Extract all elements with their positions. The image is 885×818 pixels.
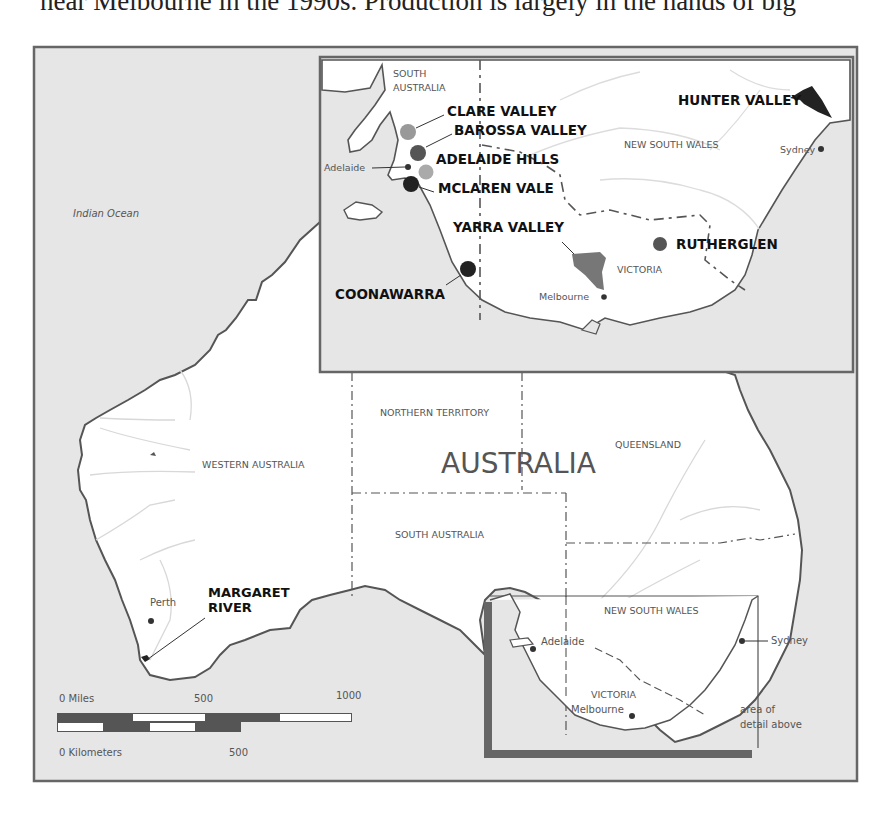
state-label-wa: WESTERN AUSTRALIA	[202, 459, 305, 470]
scale-km-label: 0 Kilometers	[59, 747, 122, 758]
region-label-rutherglen: RUTHERGLEN	[676, 236, 778, 252]
state-label-nt: NORTHERN TERRITORY	[380, 407, 489, 418]
city-label-perth: Perth	[150, 597, 176, 608]
inset-city-melbourne: Melbourne	[539, 291, 589, 302]
locator-city-adelaide: Adelaide	[541, 636, 584, 647]
locator-city-sydney: Sydney	[771, 635, 808, 646]
perth-dot	[148, 618, 154, 624]
region-label-clare: CLARE VALLEY	[447, 103, 557, 119]
region-label-adelaide-hills: ADELAIDE HILLS	[436, 151, 559, 167]
scale-km-500: 500	[229, 747, 248, 758]
inset-state-sa-1: SOUTH	[393, 68, 426, 79]
australia-wine-map: Indian Ocean AUSTRALIA WESTERN AUSTRALIA…	[0, 0, 885, 818]
ocean-label: Indian Ocean	[73, 208, 139, 219]
scale-miles-500: 500	[194, 693, 213, 704]
inset-map: SOUTH AUSTRALIA NEW SOUTH WALES VICTORIA…	[320, 57, 853, 372]
region-marker-rutherglen	[653, 237, 667, 251]
region-label-yarra: YARRA VALLEY	[452, 219, 564, 235]
inset-city-adelaide: Adelaide	[324, 162, 365, 173]
inset-state-sa-2: AUSTRALIA	[393, 82, 446, 93]
locator-label-vic: VICTORIA	[591, 689, 637, 700]
inset-city-sydney: Sydney	[780, 144, 816, 155]
region-marker-mclaren	[403, 176, 419, 192]
inset-state-nsw: NEW SOUTH WALES	[624, 139, 719, 150]
region-marker-adelaide-hills	[419, 165, 434, 180]
locator-city-melbourne: Melbourne	[571, 704, 624, 715]
region-marker-coonawarra	[460, 261, 476, 277]
region-label-coonawarra: COONAWARRA	[335, 286, 446, 302]
region-marker-barossa	[410, 145, 426, 161]
state-label-sa: SOUTH AUSTRALIA	[395, 529, 485, 540]
region-label-mclaren: MCLAREN VALE	[438, 180, 554, 196]
region-label-hunter: HUNTER VALLEY	[678, 92, 801, 108]
scale-miles-label: 0 Miles	[59, 693, 94, 704]
region-label-margaret-river-2: RIVER	[208, 600, 252, 615]
state-label-qld: QUEENSLAND	[615, 439, 681, 450]
locator-note-2: detail above	[740, 719, 802, 730]
locator-note-1: area of	[740, 704, 776, 715]
region-label-margaret-river-1: MARGARET	[208, 585, 290, 600]
locator-label-nsw: NEW SOUTH WALES	[604, 605, 699, 616]
region-marker-clare	[400, 124, 416, 140]
region-label-barossa: BAROSSA VALLEY	[454, 122, 587, 138]
inset-state-vic: VICTORIA	[617, 264, 663, 275]
scale-miles-1000: 1000	[336, 690, 361, 701]
country-label: AUSTRALIA	[441, 447, 596, 480]
